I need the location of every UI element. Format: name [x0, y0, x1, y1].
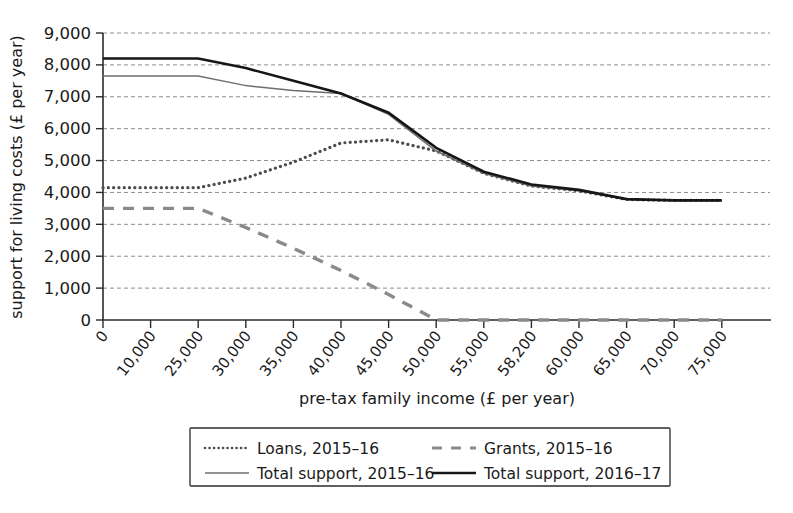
y-tick-label: 3,000	[44, 215, 91, 234]
x-tick-label: 70,000	[637, 327, 684, 379]
x-tick-label: 58,200	[494, 327, 541, 379]
y-axis-title: support for living costs (£ per year)	[7, 35, 26, 319]
x-tick-label: 60,000	[542, 327, 589, 379]
data-series-group	[103, 59, 722, 320]
x-tick-label: 65,000	[589, 327, 636, 379]
y-tick-label: 9,000	[44, 24, 91, 43]
series-line	[103, 76, 722, 200]
chart-legend: Loans, 2015–16Grants, 2015–16Total suppo…	[190, 428, 670, 486]
y-tick-label: 6,000	[44, 119, 91, 138]
y-tick-label: 1,000	[44, 279, 91, 298]
y-axis-tick-marks	[96, 33, 103, 320]
x-tick-label: 40,000	[304, 327, 351, 379]
y-tick-label: 2,000	[44, 247, 91, 266]
x-axis-tick-labels: 010,00025,00030,00035,00040,00045,00050,…	[92, 327, 731, 379]
chart-figure: 01,0002,0003,0004,0005,0006,0007,0008,00…	[0, 0, 793, 513]
legend-label-total1516: Total support, 2015–16	[256, 465, 434, 483]
x-tick-label: 10,000	[113, 327, 160, 379]
x-tick-label: 25,000	[161, 327, 208, 379]
x-axis-tick-marks	[103, 320, 722, 328]
x-tick-label: 50,000	[399, 327, 446, 379]
x-tick-label: 55,000	[446, 327, 493, 379]
x-tick-label: 45,000	[351, 327, 398, 379]
x-tick-label: 0	[92, 327, 112, 346]
chart-svg: 01,0002,0003,0004,0005,0006,0007,0008,00…	[0, 0, 793, 513]
x-tick-label: 35,000	[256, 327, 303, 379]
legend-label-loans: Loans, 2015–16	[257, 440, 379, 458]
series-line	[103, 140, 722, 201]
legend-label-total1617: Total support, 2016–17	[483, 465, 661, 483]
y-tick-label: 7,000	[44, 87, 91, 106]
series-line	[103, 59, 722, 201]
series-line	[103, 208, 722, 320]
gridlines-group	[103, 33, 770, 288]
y-axis-tick-labels: 01,0002,0003,0004,0005,0006,0007,0008,00…	[44, 24, 91, 330]
x-tick-label: 75,000	[684, 327, 731, 379]
x-tick-label: 30,000	[208, 327, 255, 379]
x-axis-title: pre-tax family income (£ per year)	[299, 389, 575, 408]
y-tick-label: 4,000	[44, 183, 91, 202]
y-tick-label: 5,000	[44, 151, 91, 170]
y-tick-label: 0	[81, 311, 92, 330]
legend-label-grants: Grants, 2015–16	[484, 440, 613, 458]
y-tick-label: 8,000	[44, 55, 91, 74]
